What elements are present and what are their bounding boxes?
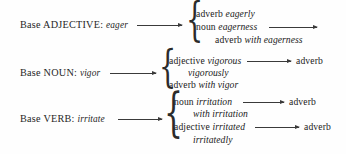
branch-form-1: vigorously: [188, 67, 229, 78]
branch-pos-0: noun: [174, 96, 194, 107]
branch-form-0: irritation: [196, 96, 232, 107]
branch-form-3: irritatedly: [193, 134, 232, 145]
branch-pos-0: adjective: [169, 55, 205, 66]
base-word-verb: irritate: [77, 114, 104, 124]
branch-result-verb-2: adverb: [304, 121, 331, 132]
branch-verb-3: irritatedly: [193, 134, 232, 145]
branch-adjective-0: adverb eagerly: [196, 8, 255, 19]
branch-noun-0: adjective vigorous: [169, 55, 241, 66]
base-prefix-noun: Base NOUN:: [20, 67, 77, 78]
branch-verb-1: with irritation: [193, 108, 248, 119]
branch-verb-2: adjective irritated: [174, 121, 245, 132]
branch-arrow-adjective-1: [269, 27, 317, 28]
branch-pos-0: adverb: [196, 8, 223, 19]
branch-adjective-2: adverb with eagerness: [215, 34, 303, 45]
branch-form-0: eagerly: [226, 8, 255, 19]
base-arrow-noun: [110, 73, 156, 74]
branch-form-2: with eagerness: [245, 34, 303, 45]
base-word-noun: vigor: [80, 68, 100, 78]
base-arrow-adjective: [137, 25, 182, 26]
base-word-adjective: eager: [106, 20, 128, 30]
base-prefix-verb: Base VERB:: [20, 113, 75, 124]
base-label-adjective: Base ADJECTIVE: eager: [20, 19, 128, 30]
branch-arrow-noun-0: [247, 61, 291, 62]
base-label-noun: Base NOUN: vigor: [20, 67, 100, 78]
branch-arrow-verb-0: [243, 102, 284, 103]
branch-result-noun-0: adverb: [296, 55, 323, 66]
base-arrow-verb: [118, 119, 162, 120]
branch-form-1: with irritation: [193, 108, 248, 119]
branch-pos-2: adverb: [215, 34, 242, 45]
branch-form-2: with vigor: [199, 79, 239, 90]
branch-verb-0: noun irritation: [174, 96, 232, 107]
branch-result-verb-0: adverb: [289, 96, 316, 107]
base-label-verb: Base VERB: irritate: [20, 113, 105, 124]
derivation-figure: Base ADJECTIVE: eager { adverb eagerly n…: [0, 0, 346, 154]
branch-form-0: vigorous: [208, 55, 242, 66]
branch-arrow-verb-2: [255, 127, 299, 128]
branch-adjective-1: noun eagerness: [196, 21, 257, 32]
branch-pos-1: noun: [196, 21, 216, 32]
branch-form-1: eagerness: [218, 21, 257, 32]
branch-form-2: irritated: [213, 121, 245, 132]
branch-noun-1: vigorously: [188, 67, 229, 78]
branch-pos-2: adjective: [174, 121, 210, 132]
base-prefix-adjective: Base ADJECTIVE:: [20, 19, 103, 30]
